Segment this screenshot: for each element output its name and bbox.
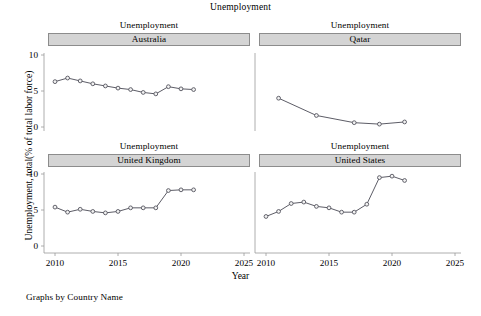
panel-header-united-states: United States	[259, 154, 461, 167]
data-point	[302, 200, 306, 204]
data-point	[403, 179, 407, 183]
chart-canvas: Unemployment Unemployment, total(% of to…	[0, 0, 481, 316]
data-point	[352, 121, 356, 125]
series-united-states	[264, 174, 406, 218]
xtick-left-2015: 2015	[100, 258, 136, 268]
data-point	[116, 210, 120, 214]
figure-footnote: Graphs by Country Name	[26, 292, 123, 302]
data-point	[167, 189, 171, 193]
data-point	[277, 210, 281, 214]
series-australia	[53, 76, 195, 96]
data-point	[116, 86, 120, 90]
data-point	[192, 88, 196, 92]
axis-top-left	[41, 53, 44, 131]
data-point	[264, 215, 268, 219]
data-point	[154, 92, 158, 96]
series-united-kingdom	[53, 188, 195, 215]
data-point	[104, 211, 108, 215]
panel-header-qatar: Qatar	[259, 33, 461, 46]
line-united-states	[266, 176, 405, 216]
ytick-bottom-left-0: 0	[22, 241, 38, 251]
data-point	[129, 88, 133, 92]
data-point	[167, 85, 171, 89]
data-point	[53, 205, 57, 209]
data-point	[154, 206, 158, 210]
data-point	[141, 206, 145, 210]
data-point	[179, 87, 183, 91]
data-point	[315, 114, 319, 118]
data-point	[53, 80, 57, 84]
ytick-bottom-left-5: 5	[22, 205, 38, 215]
data-point	[327, 206, 331, 210]
ytick-bottom-left-10: 10	[22, 169, 38, 179]
xtick-right-2020: 2020	[374, 258, 410, 268]
line-qatar	[279, 98, 405, 124]
line-united-kingdom	[55, 190, 194, 213]
data-point	[378, 176, 382, 180]
data-point	[179, 188, 183, 192]
xtick-right-2010: 2010	[248, 258, 284, 268]
data-point	[403, 120, 407, 124]
data-point	[78, 207, 82, 211]
axis-bottom-left	[41, 172, 250, 256]
data-point	[315, 205, 319, 209]
panel-header-united-kingdom: United Kingdom	[48, 154, 250, 167]
panel-subtitle-united-states: Unemployment	[259, 141, 461, 151]
xtick-left-2010: 2010	[37, 258, 73, 268]
data-point	[365, 202, 369, 206]
panel-subtitle-united-kingdom: Unemployment	[48, 141, 250, 151]
x-axis-title: Year	[0, 271, 481, 281]
data-point	[104, 84, 108, 88]
data-point	[277, 96, 281, 100]
line-australia	[55, 78, 194, 94]
data-point	[390, 174, 394, 178]
data-point	[66, 210, 70, 214]
data-point	[66, 76, 70, 80]
data-point	[192, 188, 196, 192]
data-point	[129, 206, 133, 210]
data-point	[141, 91, 145, 95]
data-point	[378, 122, 382, 126]
data-point	[91, 210, 95, 214]
xtick-right-2025: 2025	[437, 258, 473, 268]
data-point	[289, 202, 293, 206]
series-qatar	[277, 96, 407, 126]
panel-subtitle-qatar: Unemployment	[259, 20, 461, 30]
data-point	[340, 210, 344, 214]
axis-bottom-right	[255, 172, 461, 256]
xtick-right-2015: 2015	[311, 258, 347, 268]
data-point	[352, 210, 356, 214]
xtick-left-2020: 2020	[163, 258, 199, 268]
data-point	[91, 82, 95, 86]
data-point	[78, 79, 82, 83]
